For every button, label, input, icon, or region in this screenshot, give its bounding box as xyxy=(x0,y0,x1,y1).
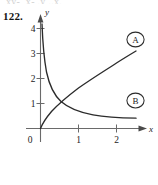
curve-label-a: A xyxy=(127,32,144,47)
y-axis-label: y xyxy=(44,7,49,17)
curve-label-a-text: A xyxy=(132,35,139,45)
y-tick-label-4: 4 xyxy=(31,24,36,34)
graph-figure: y x 0 1 2 1 2 3 4 A B xyxy=(0,0,158,185)
x-axis-label: x xyxy=(148,124,153,134)
x-axis xyxy=(26,126,147,132)
curve-b-path xyxy=(42,24,136,118)
curve-a-path xyxy=(41,51,137,129)
figure-page: xy- ,x- .y ..x. 122. xyxy=(0,0,158,185)
curve-label-b: B xyxy=(127,93,144,108)
y-tick-label-3: 3 xyxy=(31,49,36,59)
y-tick-label-1: 1 xyxy=(31,99,36,109)
origin-label: 0 xyxy=(28,135,33,145)
x-tick-label-2: 2 xyxy=(114,135,119,145)
x-tick-label-1: 1 xyxy=(76,135,81,145)
y-tick-label-2: 2 xyxy=(31,74,36,84)
curve-label-b-text: B xyxy=(132,96,138,106)
